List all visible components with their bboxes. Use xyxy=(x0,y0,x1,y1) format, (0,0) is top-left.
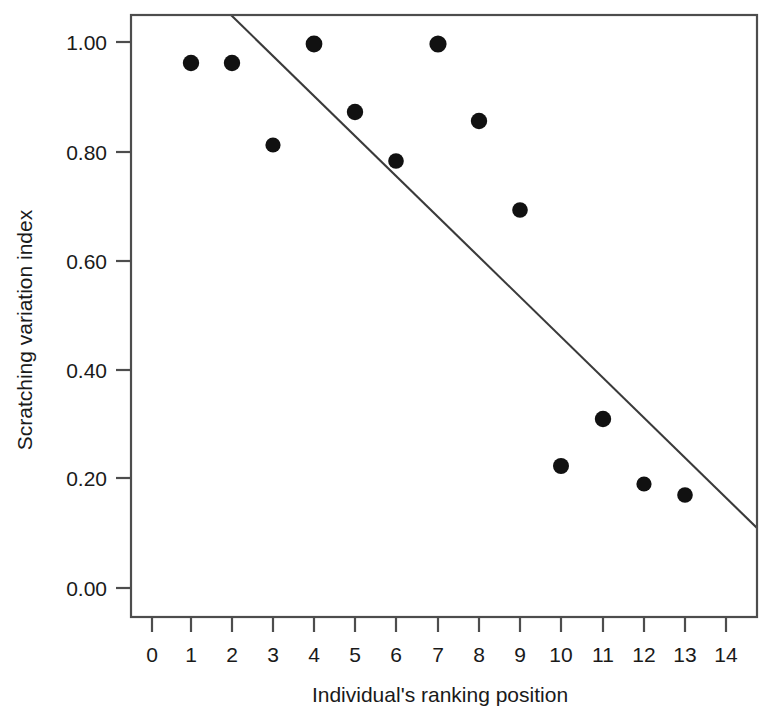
x-tick-label-0: 0 xyxy=(146,643,158,666)
data-point xyxy=(183,55,199,71)
trend-line-group xyxy=(231,15,757,528)
chart-page: 0.00 0.20 0.40 0.60 0.80 1.00 xyxy=(0,0,781,714)
data-point xyxy=(553,458,569,474)
y-tick-label-2: 0.40 xyxy=(66,359,107,382)
trend-line xyxy=(231,15,757,528)
x-tick-label-8: 8 xyxy=(473,643,485,666)
x-axis-tick-labels: 0 1 2 3 4 5 6 7 8 9 10 11 12 13 14 xyxy=(146,643,738,666)
data-point xyxy=(265,137,280,152)
y-tick-label-0: 0.00 xyxy=(66,577,107,600)
scatter-plot: 0.00 0.20 0.40 0.60 0.80 1.00 xyxy=(0,0,781,714)
data-point xyxy=(512,202,528,218)
x-tick-label-11: 11 xyxy=(592,643,614,666)
y-axis-ticks xyxy=(116,42,131,588)
y-axis-title: Scratching variation index xyxy=(13,209,36,450)
x-tick-label-10: 10 xyxy=(549,643,572,666)
x-tick-label-14: 14 xyxy=(714,643,738,666)
data-point xyxy=(388,153,404,169)
x-tick-label-5: 5 xyxy=(349,643,361,666)
x-tick-label-4: 4 xyxy=(308,643,320,666)
data-points xyxy=(183,35,693,502)
x-tick-label-12: 12 xyxy=(632,643,655,666)
data-point xyxy=(347,104,363,120)
data-point xyxy=(224,55,240,71)
y-tick-label-3: 0.60 xyxy=(66,250,107,273)
x-tick-label-9: 9 xyxy=(514,643,526,666)
data-point xyxy=(429,35,446,52)
y-axis-tick-labels: 0.00 0.20 0.40 0.60 0.80 1.00 xyxy=(66,31,107,600)
data-point xyxy=(595,411,611,427)
x-axis-title: Individual's ranking position xyxy=(312,683,568,706)
x-axis-ticks xyxy=(152,617,726,632)
data-point xyxy=(677,487,693,503)
x-tick-label-13: 13 xyxy=(673,643,696,666)
data-point xyxy=(306,36,323,53)
x-tick-label-1: 1 xyxy=(185,643,197,666)
y-tick-label-1: 0.20 xyxy=(66,467,107,490)
x-tick-label-2: 2 xyxy=(226,643,238,666)
plot-frame xyxy=(131,15,757,617)
y-tick-label-4: 0.80 xyxy=(66,141,107,164)
x-tick-label-6: 6 xyxy=(390,643,402,666)
data-point xyxy=(636,476,651,491)
data-point xyxy=(471,113,487,129)
x-tick-label-7: 7 xyxy=(432,643,444,666)
y-tick-label-5: 1.00 xyxy=(66,31,107,54)
x-tick-label-3: 3 xyxy=(267,643,279,666)
